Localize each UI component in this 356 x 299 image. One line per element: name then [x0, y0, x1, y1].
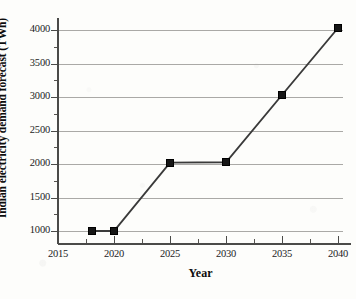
x-axis-line [58, 243, 351, 245]
x-tick-label: 2035 [262, 248, 302, 259]
y-tick-label: 1500 [8, 191, 50, 202]
gridline [58, 97, 343, 98]
x-tick-label: 2040 [318, 248, 356, 259]
gridline [58, 64, 343, 65]
x-tick-label: 2020 [94, 248, 134, 259]
gridline [58, 231, 343, 232]
gridline [58, 198, 343, 199]
y-axis-line [57, 18, 59, 244]
x-tick-mark [338, 236, 339, 243]
x-tick-label: 2015 [38, 248, 78, 259]
x-tick-mark [282, 236, 283, 243]
x-tick-label: 2030 [206, 248, 246, 259]
gridline [58, 131, 343, 132]
y-axis-title: Indian electricity demand forecast (TWh) [0, 0, 8, 248]
y-tick-label: 3500 [8, 57, 50, 68]
x-tick-mark [226, 236, 227, 243]
data-point-marker [88, 227, 96, 235]
data-point-marker [222, 158, 230, 166]
x-axis-title: Year [58, 266, 343, 281]
data-point-marker [166, 159, 174, 167]
x-tick-label: 2025 [150, 248, 190, 259]
x-tick-mark [114, 236, 115, 243]
y-tick-label: 1000 [8, 224, 50, 235]
data-point-marker [278, 91, 286, 99]
gridline [58, 164, 343, 165]
gridline [58, 30, 343, 31]
data-point-marker [110, 227, 118, 235]
x-tick-mark [170, 236, 171, 243]
y-tick-label: 2000 [8, 157, 50, 168]
y-tick-label: 2500 [8, 124, 50, 135]
chart-figure: Indian electricity demand forecast (TWh)… [0, 0, 356, 299]
data-point-marker [334, 24, 342, 32]
y-tick-label: 4000 [8, 23, 50, 34]
y-tick-label: 3000 [8, 90, 50, 101]
